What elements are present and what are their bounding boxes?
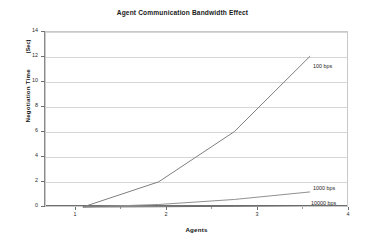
y-tick-label-4: 4: [12, 153, 38, 158]
series-line-1000bps: [83, 192, 310, 207]
y-tick-label-2: 2: [12, 178, 38, 183]
x-tick-mark-2: [166, 207, 167, 210]
series-label-1000bps: 1000 bps: [313, 186, 335, 191]
series-line-100bps: [83, 56, 310, 207]
y-axis-title: Negotiation Time: [24, 69, 31, 122]
x-tick-label-4: 4: [338, 212, 358, 217]
x-tick-label-3: 3: [247, 212, 267, 217]
series-label-10000bps: 10000 bps: [311, 201, 336, 206]
series-plot-lines: [45, 31, 348, 207]
x-axis-title: Agents: [45, 226, 348, 233]
y-tick-label-0: 0: [12, 203, 38, 208]
x-tick-label-1: 1: [65, 212, 85, 217]
x-tick-label-2: 2: [156, 212, 176, 217]
chart-figure: Agent Communication Bandwidth Effect 14 …: [0, 0, 365, 244]
y-axis-title-group: Negotiation Time (Sec): [16, 11, 28, 151]
x-tick-mark-3: [257, 207, 258, 210]
x-minor-tick-2: [211, 207, 212, 209]
y-axis-units: (Sec): [25, 40, 31, 54]
x-tick-mark-1: [75, 207, 76, 210]
x-tick-mark-4: [348, 207, 349, 210]
x-minor-tick-3: [302, 207, 303, 209]
chart-title: Agent Communication Bandwidth Effect: [0, 9, 365, 16]
series-label-100bps: 100 bps: [313, 64, 332, 69]
